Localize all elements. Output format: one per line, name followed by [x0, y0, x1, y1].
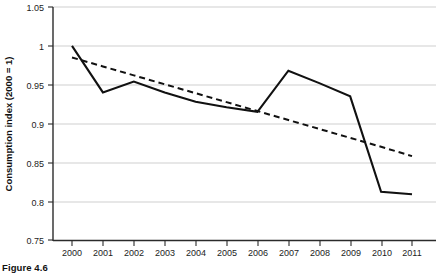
x-tick-label-2007: 2007 [279, 248, 299, 258]
y-tick-label-0-80: 0.8 [31, 198, 44, 208]
x-tick-label-2011: 2011 [402, 248, 421, 258]
y-tick-label-0-95: 0.95 [26, 81, 44, 91]
x-tick-label-2002: 2002 [124, 248, 144, 258]
series-consumption-index-solid-line [72, 46, 412, 194]
y-axis-tick-labels: 1.05 1 0.95 0.9 0.85 0.8 0.75 [26, 3, 44, 246]
y-axis [48, 7, 53, 241]
x-axis-tick-labels: 2000 2001 2002 2003 2004 2005 2006 2007 … [62, 248, 422, 258]
x-tick-label-2005: 2005 [217, 248, 237, 258]
y-tick-label-1-05: 1.05 [26, 3, 44, 13]
x-tick-label-2008: 2008 [310, 248, 330, 258]
x-tick-label-2009: 2009 [341, 248, 361, 258]
x-tick-label-2004: 2004 [186, 248, 206, 258]
y-tick-label-0-85: 0.85 [26, 159, 44, 169]
x-tick-label-2000: 2000 [62, 248, 82, 258]
y-tick-label-0-75: 0.75 [26, 236, 44, 246]
x-tick-label-2006: 2006 [248, 248, 268, 258]
y-tick-label-1-00: 1 [39, 42, 44, 52]
x-tick-label-2010: 2010 [372, 248, 392, 258]
y-tick-label-0-90: 0.9 [31, 120, 44, 130]
series-trend-dashed-line [72, 57, 412, 156]
x-axis [53, 241, 436, 247]
gridlines [53, 7, 436, 202]
y-axis-title: Consumption index (2000 = 1) [3, 57, 14, 192]
x-tick-label-2001: 2001 [93, 248, 113, 258]
figure-caption: Figure 4.6 [2, 262, 48, 273]
x-tick-label-2003: 2003 [155, 248, 175, 258]
